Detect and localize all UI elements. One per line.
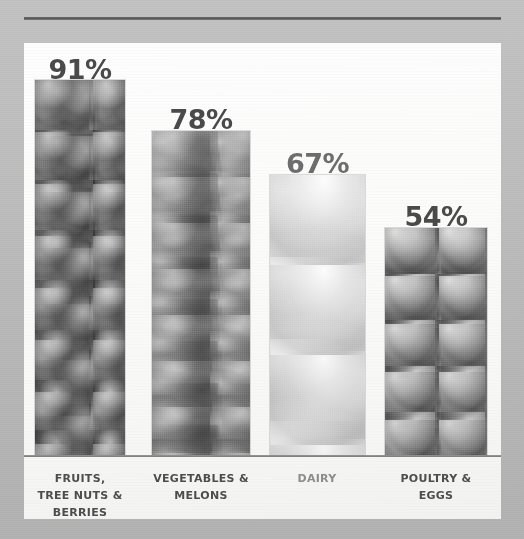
- bar-group-vegetables-melons[interactable]: 78%: [152, 0, 250, 539]
- category-label-vegetables: VEGETABLES & MELONS: [141, 470, 261, 504]
- bar-fill-poultry[interactable]: [385, 228, 487, 455]
- bar-fill-vegetables[interactable]: [152, 131, 250, 455]
- bar-shade-overlay-poultry: [385, 228, 487, 455]
- category-label-dairy: DAIRY: [262, 470, 372, 487]
- bar-value-label-vegetables: 78%: [152, 106, 250, 133]
- bar-group-fruits-tree-nuts-berries[interactable]: 91%: [35, 0, 125, 539]
- category-label-line: FRUITS,: [20, 470, 140, 487]
- category-label-line: VEGETABLES &: [141, 470, 261, 487]
- bar-value-label-fruits: 91%: [35, 56, 125, 83]
- infographic-page: 91% 78% 67% 54%: [0, 0, 524, 539]
- bar-shade-overlay-fruits: [35, 80, 125, 455]
- bar-value-label-poultry: 54%: [385, 203, 487, 230]
- category-label-line: TREE NUTS &: [20, 487, 140, 504]
- bar-shade-overlay-dairy: [270, 175, 365, 455]
- bar-fill-dairy[interactable]: [270, 175, 365, 455]
- category-label-line: EGGS: [376, 487, 496, 504]
- category-label-fruits: FRUITS, TREE NUTS & BERRIES: [20, 470, 140, 521]
- bar-fill-fruits[interactable]: [35, 80, 125, 455]
- bar-shade-overlay-vegetables: [152, 131, 250, 455]
- category-label-line: MELONS: [141, 487, 261, 504]
- category-label-poultry: POULTRY & EGGS: [376, 470, 496, 504]
- category-label-line: POULTRY &: [376, 470, 496, 487]
- bar-group-dairy[interactable]: 67%: [270, 0, 365, 539]
- bar-chart: 91% 78% 67% 54%: [0, 0, 524, 539]
- axis-baseline: [24, 455, 501, 457]
- category-label-line: DAIRY: [262, 470, 372, 487]
- bar-value-label-dairy: 67%: [270, 150, 365, 177]
- category-label-line: BERRIES: [20, 504, 140, 521]
- bar-group-poultry-eggs[interactable]: 54%: [385, 0, 487, 539]
